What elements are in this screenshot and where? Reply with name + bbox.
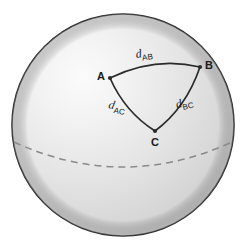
vertex-label-c: C xyxy=(151,137,159,148)
sphere-diagram-canvas xyxy=(0,0,248,252)
vertex-point-c xyxy=(153,129,157,133)
arc-label-dab: dAB xyxy=(135,46,154,64)
vertex-point-b xyxy=(198,65,202,69)
arc-label-dac: dAC xyxy=(107,98,127,117)
vertex-label-a: A xyxy=(97,71,105,82)
vertex-point-a xyxy=(108,76,112,80)
vertex-label-b: B xyxy=(205,60,213,71)
arc-label-dab-subscript: AB xyxy=(142,52,154,63)
sphere-rim-shading xyxy=(12,14,234,236)
spherical-triangle-figure: A B C dAB dAC dBC xyxy=(0,0,248,252)
